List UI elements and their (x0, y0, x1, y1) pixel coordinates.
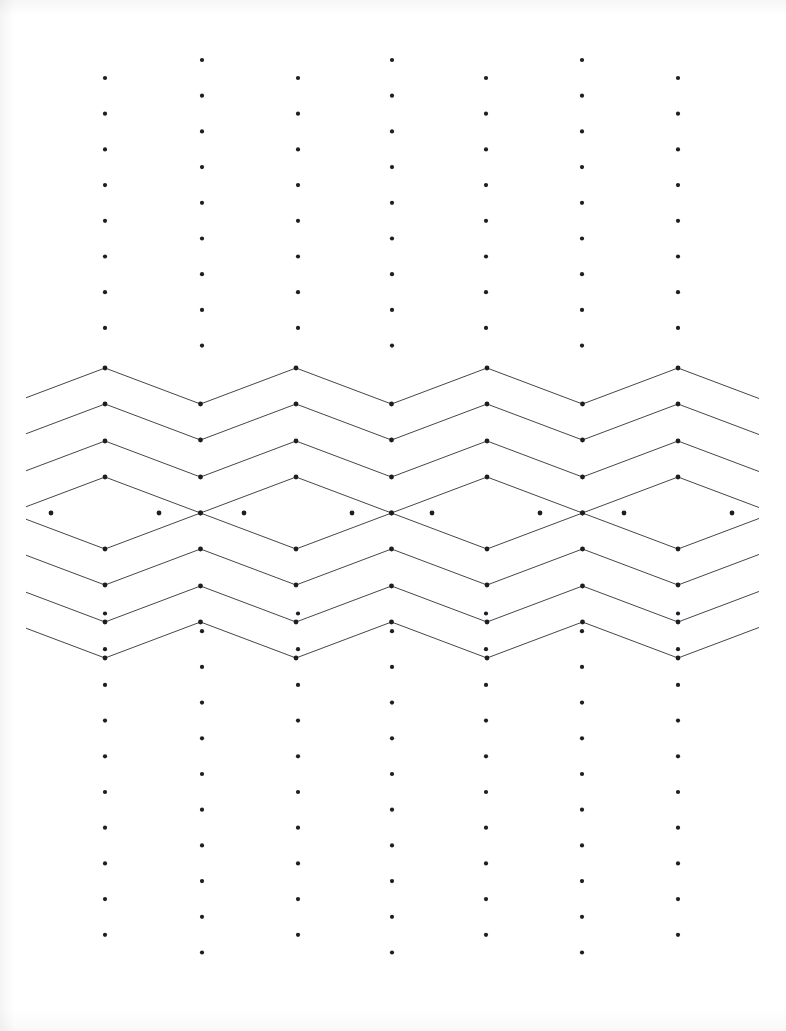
lattice-dot (296, 183, 300, 187)
pattern-vertex-dot (676, 583, 681, 588)
lattice-dot (580, 772, 584, 776)
lattice-dot (676, 754, 680, 758)
pattern-vertex-dot (676, 547, 681, 552)
pattern-vertex-dot (580, 547, 585, 552)
pattern-vertex-dot (198, 438, 203, 443)
pattern-vertex-dot (198, 547, 203, 552)
diamond-side-vertex-dot (538, 511, 543, 516)
lattice-dot (296, 147, 300, 151)
lattice-dot (200, 201, 204, 205)
lattice-dot (676, 76, 680, 80)
lattice-dot (390, 736, 394, 740)
lattice-dot (296, 933, 300, 937)
lattice-dot (676, 219, 680, 223)
pattern-vertex-dot (676, 620, 681, 625)
diamond-side-vertex-dot (350, 511, 355, 516)
lattice-dot (103, 112, 107, 116)
lattice-dot (676, 897, 680, 901)
pattern-vertex-dot (676, 366, 681, 371)
lattice-dot (484, 611, 488, 615)
lattice-dot (580, 129, 584, 133)
lattice-dot (580, 915, 584, 919)
lattice-dot (580, 879, 584, 883)
pattern-vertex-dot (580, 584, 585, 589)
lattice-dot (676, 183, 680, 187)
lattice-dot (296, 754, 300, 758)
lattice-dot (580, 94, 584, 98)
lattice-dot (676, 826, 680, 830)
lattice-dot (103, 76, 107, 80)
pattern-vertex-dot (580, 475, 585, 480)
pattern-vertex-dot (103, 402, 108, 407)
lattice-dot (484, 826, 488, 830)
lattice-dot (580, 201, 584, 205)
lattice-dot (200, 272, 204, 276)
pattern-vertex-dot (198, 475, 203, 480)
lattice-dot (390, 308, 394, 312)
pattern-vertex-dot (580, 438, 585, 443)
lattice-dot (200, 308, 204, 312)
pattern-vertex-dot (198, 584, 203, 589)
lattice-dot (103, 326, 107, 330)
lattice-dot (676, 647, 680, 651)
dot-lattice-layer (103, 58, 680, 955)
lattice-dot (676, 861, 680, 865)
lattice-dot (296, 219, 300, 223)
lattice-dot (580, 58, 584, 62)
lattice-dot (484, 897, 488, 901)
pattern-vertex-dot (389, 402, 394, 407)
lattice-dot (103, 290, 107, 294)
diamond-side-vertex-dot (730, 511, 735, 516)
pattern-vertex-dot (103, 475, 108, 480)
diamond-side-vertex-dot (242, 511, 247, 516)
pattern-vertex-dot (294, 439, 299, 444)
pattern-vertex-dot (676, 439, 681, 444)
lattice-dot (484, 112, 488, 116)
diamond-side-vertex-dot (622, 511, 627, 516)
lattice-dot (580, 950, 584, 954)
lattice-dot (484, 790, 488, 794)
lattice-dot (103, 826, 107, 830)
lattice-dot (296, 611, 300, 615)
lattice-dot (200, 344, 204, 348)
pattern-vertex-dot (294, 547, 299, 552)
lattice-dot (390, 129, 394, 133)
lattice-dot (103, 861, 107, 865)
lattice-dot (200, 808, 204, 812)
vertex-dots-layer (49, 366, 735, 661)
pattern-vertex-dot (103, 439, 108, 444)
lattice-dot (296, 897, 300, 901)
lattice-dot (200, 665, 204, 669)
pattern-vertex-dot (580, 402, 585, 407)
pattern-vertex-dot (103, 656, 108, 661)
diamond-side-vertex-dot (430, 511, 435, 516)
lattice-dot (296, 826, 300, 830)
lattice-dot (484, 754, 488, 758)
lattice-dot (390, 950, 394, 954)
lattice-dot (580, 344, 584, 348)
pattern-vertex-dot (485, 402, 490, 407)
lattice-dot (200, 94, 204, 98)
lattice-dot (200, 772, 204, 776)
chevron-ring-3-lower (26, 549, 759, 585)
lattice-dot (200, 701, 204, 705)
pattern-vertex-dot (485, 547, 490, 552)
pattern-vertex-dot (103, 583, 108, 588)
lattice-dot (390, 272, 394, 276)
pattern-vertex-dot (389, 511, 394, 516)
lattice-dot (484, 254, 488, 258)
lattice-dot (484, 147, 488, 151)
lattice-dot (103, 219, 107, 223)
pattern-vertex-dot (485, 475, 490, 480)
pattern-vertex-dot (198, 511, 203, 516)
lattice-dot (296, 254, 300, 258)
pattern-vertex-dot (485, 439, 490, 444)
pattern-vertex-dot (580, 511, 585, 516)
chevron-ring-4-lower (26, 513, 759, 549)
lattice-dot (390, 808, 394, 812)
pattern-vertex-dot (389, 475, 394, 480)
lattice-dot (103, 790, 107, 794)
diamond-side-vertex-dot (49, 511, 54, 516)
pattern-sheet (0, 0, 786, 1031)
lattice-dot (390, 344, 394, 348)
